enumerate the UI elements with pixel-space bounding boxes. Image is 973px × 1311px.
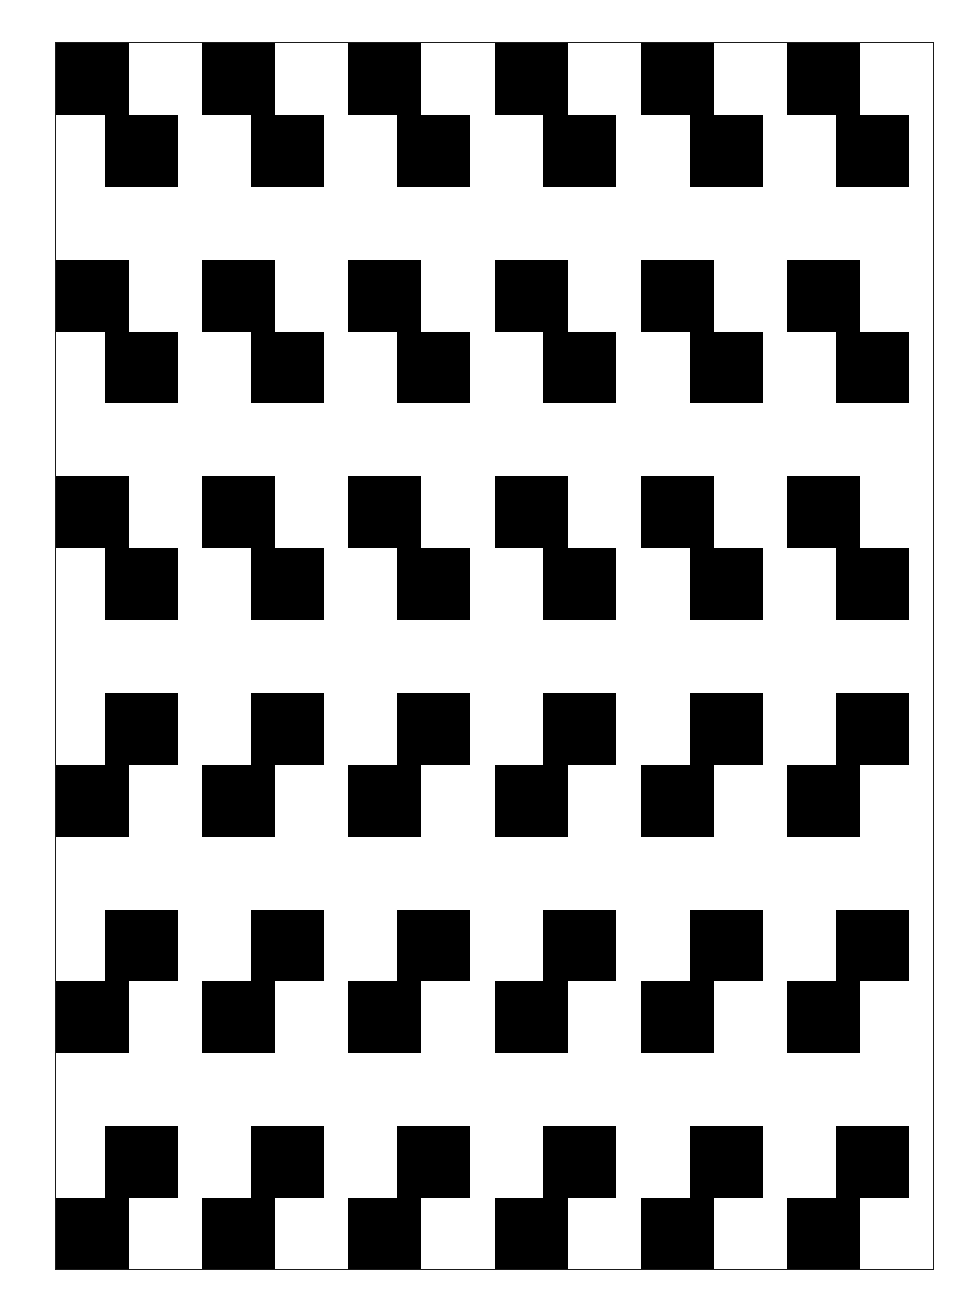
pattern-square-aligned (787, 981, 860, 1053)
pattern-square-offset (397, 115, 470, 187)
pattern-square-offset (397, 332, 470, 404)
pattern-square-aligned (56, 981, 129, 1053)
pattern-square-offset (836, 548, 909, 620)
pattern-square-aligned (495, 981, 568, 1053)
pattern-square-offset (105, 693, 178, 765)
pattern-square-offset (105, 910, 178, 982)
pattern-square-aligned (495, 765, 568, 837)
pattern-square-aligned (56, 1198, 129, 1269)
pattern-square-offset (836, 1126, 909, 1198)
pattern-square-offset (836, 115, 909, 187)
pattern-square-aligned (641, 1198, 714, 1269)
pattern-square-offset (251, 693, 324, 765)
pattern-square-aligned (202, 43, 275, 115)
pattern-square-aligned (641, 476, 714, 548)
pattern-square-aligned (348, 43, 421, 115)
pattern-square-offset (690, 910, 763, 982)
pattern-square-aligned (495, 476, 568, 548)
pattern-square-aligned (641, 765, 714, 837)
pattern-square-offset (397, 1126, 470, 1198)
pattern-square-offset (836, 910, 909, 982)
pattern-canvas (56, 43, 933, 1269)
pattern-square-offset (397, 548, 470, 620)
pattern-square-aligned (641, 981, 714, 1053)
pattern-square-offset (543, 115, 616, 187)
pattern-square-aligned (56, 260, 129, 332)
pattern-square-aligned (641, 260, 714, 332)
pattern-square-aligned (787, 476, 860, 548)
pattern-square-aligned (641, 43, 714, 115)
pattern-square-offset (543, 693, 616, 765)
pattern-square-offset (690, 693, 763, 765)
paper-background (56, 43, 933, 1269)
pattern-square-aligned (495, 260, 568, 332)
pattern-square-offset (251, 910, 324, 982)
pattern-square-aligned (348, 1198, 421, 1269)
pattern-square-aligned (202, 1198, 275, 1269)
pattern-square-offset (397, 693, 470, 765)
pattern-square-aligned (202, 260, 275, 332)
pattern-square-offset (251, 115, 324, 187)
pattern-square-offset (105, 548, 178, 620)
pattern-square-offset (543, 1126, 616, 1198)
pattern-square-offset (836, 693, 909, 765)
artboard (0, 0, 973, 1311)
pattern-square-offset (251, 332, 324, 404)
pattern-square-offset (690, 115, 763, 187)
pattern-square-aligned (787, 765, 860, 837)
pattern-square-offset (251, 1126, 324, 1198)
pattern-square-aligned (495, 43, 568, 115)
pattern-square-aligned (348, 981, 421, 1053)
pattern-frame (55, 42, 934, 1270)
pattern-square-aligned (348, 476, 421, 548)
pattern-square-aligned (56, 476, 129, 548)
pattern-square-offset (543, 910, 616, 982)
pattern-square-offset (690, 1126, 763, 1198)
pattern-square-aligned (56, 43, 129, 115)
pattern-square-offset (543, 332, 616, 404)
pattern-square-aligned (787, 260, 860, 332)
pattern-square-aligned (495, 1198, 568, 1269)
pattern-square-aligned (787, 1198, 860, 1269)
pattern-square-aligned (56, 765, 129, 837)
pattern-square-aligned (202, 981, 275, 1053)
pattern-square-offset (543, 548, 616, 620)
pattern-square-aligned (787, 43, 860, 115)
pattern-square-offset (105, 115, 178, 187)
pattern-square-offset (836, 332, 909, 404)
pattern-square-aligned (348, 260, 421, 332)
pattern-square-offset (251, 548, 324, 620)
pattern-square-offset (105, 1126, 178, 1198)
pattern-square-offset (690, 548, 763, 620)
pattern-square-offset (397, 910, 470, 982)
pattern-square-offset (105, 332, 178, 404)
pattern-square-offset (690, 332, 763, 404)
pattern-square-aligned (202, 765, 275, 837)
pattern-square-aligned (348, 765, 421, 837)
pattern-square-aligned (202, 476, 275, 548)
